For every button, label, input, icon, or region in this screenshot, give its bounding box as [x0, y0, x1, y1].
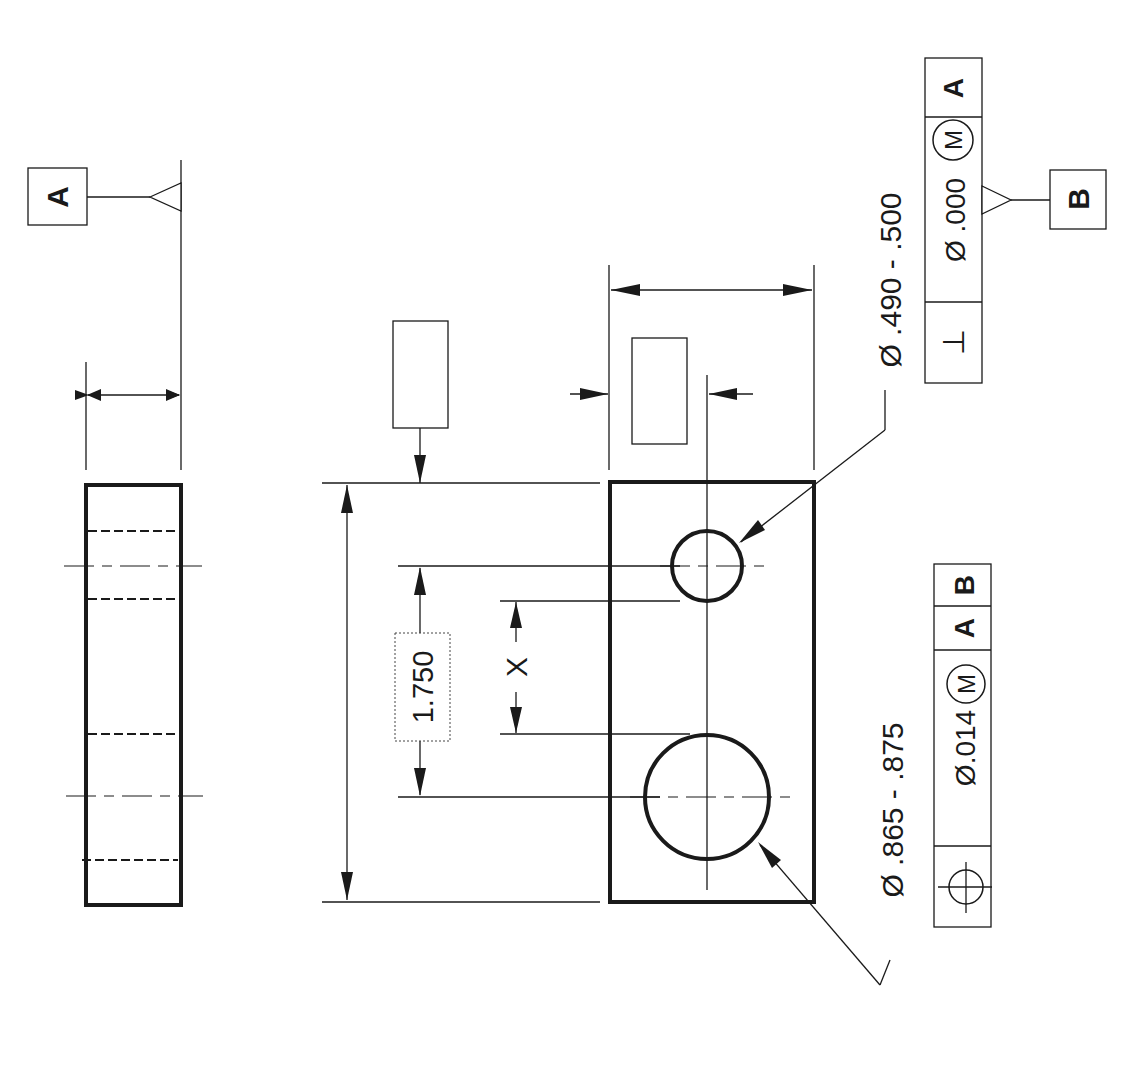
dimension-x: X	[500, 657, 533, 677]
blank-dimension-box	[632, 338, 687, 444]
perpendicularity-tolerance: Ø .000	[940, 178, 971, 262]
fcf-datum-b: B	[949, 575, 980, 595]
datum-a-feature: A	[28, 168, 181, 225]
datum-b-label: B	[1062, 188, 1095, 210]
basic-dimension-1750: 1.750	[407, 651, 439, 724]
datum-a-label: A	[41, 186, 74, 208]
position-fcf: Ø.014 M A B	[934, 564, 992, 927]
perpendicularity-icon: ⊥	[937, 329, 970, 355]
svg-text:M: M	[940, 130, 967, 150]
svg-text:M: M	[953, 674, 980, 694]
position-tolerance: Ø.014	[950, 710, 981, 786]
side-view-outline	[86, 485, 181, 905]
side-view: A	[28, 160, 203, 905]
front-view: 1.750 X	[322, 265, 814, 902]
front-view-outline	[610, 482, 814, 902]
blank-dimension-box	[393, 321, 448, 428]
fcf-datum-a: A	[949, 618, 980, 638]
gdt-drawing: A 1.750 X	[0, 0, 1125, 1083]
large-hole-callout: Ø .865 - .875 Ø.014 M A B	[758, 564, 992, 985]
perpendicularity-fcf: ⊥ Ø .000 M A B	[925, 58, 1106, 383]
large-hole-size: Ø .865 - .875	[876, 722, 909, 897]
fcf-datum-a: A	[938, 78, 969, 98]
small-hole-callout: Ø .490 - .500 ⊥ Ø .000 M A B	[739, 58, 1106, 543]
small-hole-size: Ø .490 - .500	[874, 192, 907, 367]
